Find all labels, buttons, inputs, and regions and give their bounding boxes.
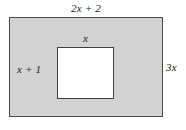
inner-height-label: x + 1 <box>17 64 41 75</box>
inner-rectangle <box>57 47 114 99</box>
inner-width-label: x <box>57 33 114 44</box>
figure-canvas: 2x + 2 3x x + 1 x <box>0 0 186 130</box>
outer-width-label: 2x + 2 <box>0 3 172 14</box>
outer-height-label: 3x <box>166 62 177 73</box>
